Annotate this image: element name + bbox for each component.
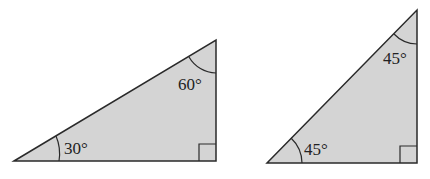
triangle-30-60-90: 30° 60° [14,40,216,161]
diagram-canvas: 30° 60° 45° 45° [0,0,430,179]
triangle-1-shape [14,40,216,161]
triangle-45-45-90: 45° 45° [267,10,417,163]
angle-label-30: 30° [64,139,88,158]
angle-label-60: 60° [178,75,202,94]
angle-label-45-bottom: 45° [304,140,328,159]
triangle-2-shape [267,10,417,163]
angle-label-45-top: 45° [383,49,407,68]
